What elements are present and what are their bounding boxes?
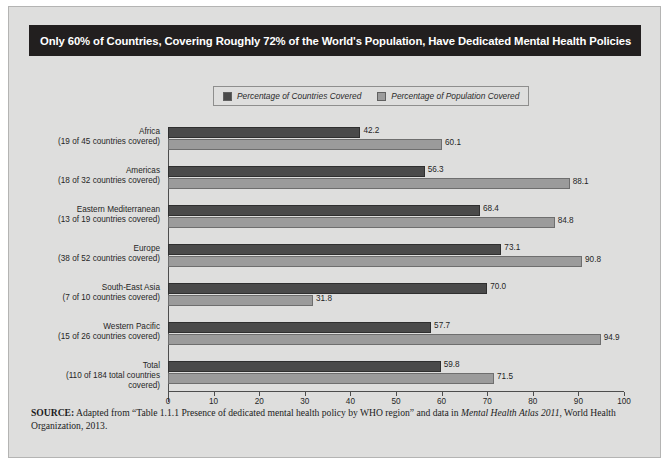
bar: 84.8 [168,217,629,228]
legend-swatch-icon [223,92,232,101]
x-axis-tick [168,392,169,396]
bar-fill [168,283,487,294]
category-name: Total [143,361,160,370]
x-axis-tick [305,392,306,396]
category-sublabel: (15 of 26 countries covered) [37,332,160,342]
page-title: Only 60% of Countries, Covering Roughly … [40,35,631,47]
category-name: Africa [139,127,160,136]
legend-label: Percentage of Countries Covered [237,91,361,101]
chart-category-row: Africa(19 of 45 countries covered)42.260… [37,127,629,151]
source-title-italic: Mental Health Atlas 2011 [461,407,560,418]
x-axis-tick-label: 20 [255,397,264,406]
category-label: Europe(38 of 52 countries covered) [37,244,164,264]
category-name: Eastern Mediterranean [77,205,160,214]
bar-value-label: 88.1 [573,177,589,186]
x-axis-tick-label: 30 [300,397,309,406]
x-axis-tick-label: 10 [209,397,218,406]
chart-legend: Percentage of Countries CoveredPercentag… [213,86,529,106]
bar: 71.5 [168,373,629,384]
source-text-1: Adapted from “Table 1.1.1 Presence of de… [74,407,461,418]
plot-area: Africa(19 of 45 countries covered)42.260… [37,119,629,404]
category-label: Total(110 of 184 total countries covered… [37,361,164,392]
x-axis-tick [624,392,625,396]
bar-value-label: 73.1 [504,243,520,252]
category-label: Africa(19 of 45 countries covered) [37,127,164,147]
bar-value-label: 60.1 [445,138,461,147]
x-axis-tick [578,392,579,396]
bar-fill [168,334,601,345]
bar-fill [168,217,555,228]
source-note: SOURCE: Adapted from “Table 1.1.1 Presen… [31,407,645,432]
x-axis-tick-label: 60 [437,397,446,406]
category-label: Western Pacific(15 of 26 countries cover… [37,322,164,342]
category-sublabel: (38 of 52 countries covered) [37,254,160,264]
bar-value-label: 56.3 [428,165,444,174]
bar: 59.8 [168,361,629,372]
bar-group: 68.484.8 [168,205,629,229]
bar-group: 42.260.1 [168,127,629,151]
bar-value-label: 57.7 [434,321,450,330]
x-axis-tick-label: 40 [346,397,355,406]
chart-category-row: Total(110 of 184 total countries covered… [37,361,629,392]
bar: 90.8 [168,256,629,267]
chart-category-row: Americas(18 of 32 countries covered)56.3… [37,166,629,190]
x-axis-tick [487,392,488,396]
bar: 60.1 [168,139,629,150]
source-label: SOURCE: [31,407,74,418]
bar-fill [168,322,431,333]
x-axis-tick-label: 70 [483,397,492,406]
bar: 42.2 [168,127,629,138]
bar-group: 70.031.8 [168,283,629,307]
x-axis-tick-label: 100 [617,397,631,406]
chart-category-row: Europe(38 of 52 countries covered)73.190… [37,244,629,268]
bar-fill [168,361,441,372]
chart-category-row: Eastern Mediterranean(13 of 19 countries… [37,205,629,229]
bar-fill [168,205,480,216]
bar-value-label: 90.8 [585,255,601,264]
category-name: Americas [126,166,160,175]
bar-fill [168,256,582,267]
category-sublabel: (19 of 45 countries covered) [37,137,160,147]
bar-value-label: 31.8 [316,294,332,303]
x-axis-tick [214,392,215,396]
category-name: Western Pacific [103,322,160,331]
bar-fill [168,244,501,255]
bar: 70.0 [168,283,629,294]
chart-category-row: Western Pacific(15 of 26 countries cover… [37,322,629,346]
bar-value-label: 42.2 [363,126,379,135]
x-axis-tick-label: 50 [391,397,400,406]
figure-panel: Only 60% of Countries, Covering Roughly … [8,6,661,458]
category-name: Europe [134,244,160,253]
legend-label: Percentage of Population Covered [391,91,519,101]
category-sublabel: (110 of 184 total countries covered) [37,371,160,391]
bar: 56.3 [168,166,629,177]
bar-fill [168,127,360,138]
x-axis-tick [396,392,397,396]
x-axis-tick [350,392,351,396]
legend-item: Percentage of Countries Covered [223,91,361,101]
x-axis-tick [442,392,443,396]
bar-value-label: 68.4 [483,204,499,213]
bar-value-label: 59.8 [444,360,460,369]
bar-group: 59.871.5 [168,361,629,385]
legend-item: Percentage of Population Covered [377,91,519,101]
bar-group: 73.190.8 [168,244,629,268]
bar-fill [168,139,442,150]
bar-fill [168,373,494,384]
category-label: South-East Asia(7 of 10 countries covere… [37,283,164,303]
x-axis-tick [259,392,260,396]
x-axis-tick-label: 0 [166,397,171,406]
bar-value-label: 94.9 [604,333,620,342]
chart-title-banner: Only 60% of Countries, Covering Roughly … [29,25,641,56]
bar-value-label: 70.0 [490,282,506,291]
legend-swatch-icon [377,92,386,101]
category-label: Eastern Mediterranean(13 of 19 countries… [37,205,164,225]
x-axis-tick-label: 80 [528,397,537,406]
bar: 57.7 [168,322,629,333]
bar: 88.1 [168,178,629,189]
bar: 73.1 [168,244,629,255]
category-name: South-East Asia [102,283,160,292]
category-sublabel: (7 of 10 countries covered) [37,293,160,303]
category-sublabel: (13 of 19 countries covered) [37,215,160,225]
bar: 31.8 [168,295,629,306]
